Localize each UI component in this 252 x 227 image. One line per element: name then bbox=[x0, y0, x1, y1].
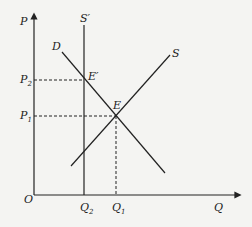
supply-demand-diagram: P Q O S′ D S E′ E P2 P1 Q2 Q1 bbox=[0, 0, 252, 227]
q1-label: Q1 bbox=[112, 201, 126, 216]
origin-label: O bbox=[24, 193, 33, 206]
new-equilibrium-label: E′ bbox=[87, 70, 99, 83]
demand-label: D bbox=[51, 40, 61, 53]
p2-label: P2 bbox=[19, 73, 32, 88]
equilibrium-label: E bbox=[112, 99, 121, 112]
p1-label: P1 bbox=[19, 109, 32, 124]
demand-curve bbox=[62, 52, 165, 173]
supply-label: S bbox=[172, 47, 180, 60]
x-axis-label: Q bbox=[214, 201, 223, 214]
shifted-supply-label: S′ bbox=[80, 12, 91, 25]
y-axis-label: P bbox=[19, 15, 28, 28]
q2-label: Q2 bbox=[80, 201, 94, 216]
